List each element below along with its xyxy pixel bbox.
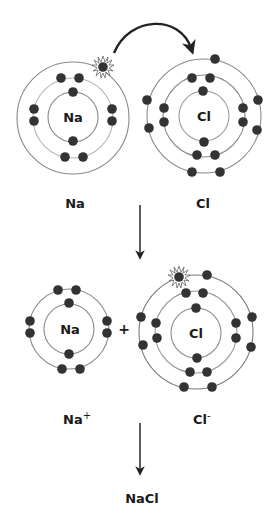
electron <box>75 364 85 374</box>
electron <box>191 303 201 313</box>
electron <box>64 298 74 308</box>
sodium-ion: Na <box>25 285 112 374</box>
electron <box>198 288 208 298</box>
sodium-ion-nucleus-symbol: Na <box>60 322 80 337</box>
electron <box>192 150 202 160</box>
electron <box>187 167 197 177</box>
sodium-ion-charge: + <box>83 410 91 421</box>
electron <box>231 318 241 328</box>
electron <box>25 316 35 326</box>
electron <box>198 86 208 96</box>
electron <box>60 152 70 162</box>
valence-electron <box>98 62 108 72</box>
electron <box>53 285 63 295</box>
electron <box>136 312 146 322</box>
electron <box>64 349 74 359</box>
electron <box>187 73 197 83</box>
electron <box>74 73 84 83</box>
electron <box>138 340 148 350</box>
electron <box>107 116 117 126</box>
electron-transfer-arrow <box>114 24 191 53</box>
electron <box>68 136 78 146</box>
sodium-ion-label-base: Na <box>63 412 83 427</box>
chloride-ion-nucleus-symbol: Cl <box>189 326 203 341</box>
electron <box>205 73 215 83</box>
electron <box>179 382 189 392</box>
electron <box>57 364 67 374</box>
sodium-ion-label: Na+ <box>63 410 91 427</box>
electron <box>238 117 248 127</box>
chloride-ion: Cl <box>136 266 257 392</box>
electron <box>185 367 195 377</box>
sodium-valence-electron-starburst <box>92 56 114 78</box>
electron <box>159 103 169 113</box>
chlorine-atom: Cl <box>142 54 263 177</box>
electron <box>71 285 81 295</box>
product-label: NaCl <box>125 491 159 506</box>
electron <box>210 150 220 160</box>
electron <box>210 54 220 64</box>
electron <box>252 125 262 135</box>
electron <box>247 312 257 322</box>
electron <box>102 328 112 338</box>
electron <box>181 288 191 298</box>
electron <box>107 104 117 114</box>
chloride-ion-charge: - <box>207 410 211 421</box>
chlorine-label: Cl <box>196 196 210 211</box>
sodium-atom: Na <box>17 56 129 174</box>
sodium-nucleus-symbol: Na <box>63 110 83 125</box>
electron <box>159 117 169 127</box>
electron <box>78 152 88 162</box>
electron <box>25 328 35 338</box>
electron <box>202 270 212 280</box>
chloride-ion-label-base: Cl <box>193 412 207 427</box>
electron <box>29 116 39 126</box>
electron <box>151 318 161 328</box>
sodium-label: Na <box>65 196 85 211</box>
electron <box>142 95 152 105</box>
electron <box>199 137 209 147</box>
plus-sign: + <box>118 321 130 337</box>
gained-electron <box>174 272 184 282</box>
electron <box>29 104 39 114</box>
electron <box>68 87 78 97</box>
electron <box>246 342 256 352</box>
electron <box>152 333 162 343</box>
electron <box>253 95 263 105</box>
electron <box>238 103 248 113</box>
electron <box>192 353 202 363</box>
electron <box>231 333 241 343</box>
electron <box>215 167 225 177</box>
chlorine-nucleus-symbol: Cl <box>197 109 211 124</box>
gained-electron-starburst <box>168 266 190 288</box>
electron <box>56 73 66 83</box>
electron <box>144 123 154 133</box>
chloride-ion-label: Cl- <box>193 410 211 427</box>
electron <box>102 316 112 326</box>
electron <box>207 382 217 392</box>
nacl-ionic-bond-diagram: Na Cl <box>0 0 272 528</box>
electron <box>202 367 212 377</box>
